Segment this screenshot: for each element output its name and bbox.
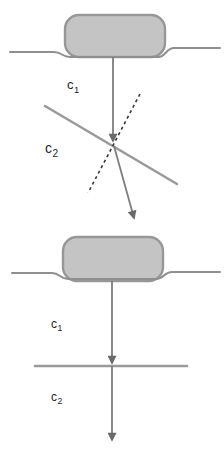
label-c1-top-sub: 1	[74, 85, 80, 95]
label-c2-top-base: c	[45, 140, 53, 156]
label-c1-bottom: c1	[51, 318, 63, 333]
figure-canvas: c1 c2 c1 c2	[0, 0, 224, 462]
label-c1-top: c1	[67, 78, 80, 95]
panel-horizontal-interface	[12, 237, 220, 440]
panel-dipping-interface	[10, 15, 220, 218]
ray-diagram-svg	[0, 0, 224, 462]
seismic-source-block	[65, 15, 165, 57]
label-c2-bottom-sub: 2	[58, 396, 63, 406]
label-c2-bottom: c2	[51, 391, 63, 406]
label-c2-top-sub: 2	[53, 148, 59, 159]
label-c1-top-base: c	[67, 77, 74, 92]
dipping-interface-line	[45, 106, 177, 184]
interface-normal-dashed-line	[88, 94, 140, 193]
label-c1-bottom-sub: 1	[58, 323, 63, 333]
label-c2-top: c2	[45, 141, 59, 159]
seismic-source-block	[63, 237, 163, 281]
